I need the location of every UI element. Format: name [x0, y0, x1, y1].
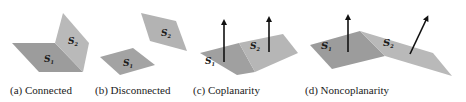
caption-b: (b) Disconnected — [95, 84, 170, 96]
caption-d: (d) Noncoplanarity — [305, 84, 389, 96]
surface-configuration-figure: S1 S2 S2 S1 S1 S2 S1 S2 (a) C — [0, 0, 466, 102]
normal-arrow-s2 — [410, 18, 427, 54]
caption-a: (a) Connected — [10, 84, 72, 96]
panel-d-noncoplanarity: S1 S2 — [310, 17, 452, 76]
caption-c: (c) Coplanarity — [193, 84, 260, 96]
panel-c-coplanarity: S1 S2 — [200, 19, 298, 75]
svg-text:S2: S2 — [383, 37, 394, 49]
panel-a-connected: S1 S2 — [12, 13, 89, 72]
panel-b-disconnected: S2 S1 — [100, 13, 187, 75]
